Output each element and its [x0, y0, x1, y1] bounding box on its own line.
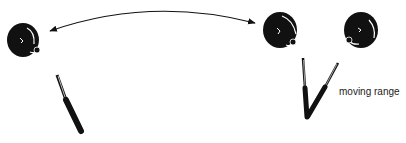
moving-range-label: moving range: [339, 86, 400, 97]
knob-left-icon: [7, 23, 40, 57]
diagram-canvas: [0, 0, 406, 143]
knob-center-icon: [263, 12, 297, 48]
stick-range-icon: [303, 58, 338, 117]
double-arrow-icon: [50, 11, 255, 31]
knob-right-icon: [344, 12, 378, 48]
stick-left-icon: [57, 75, 81, 131]
